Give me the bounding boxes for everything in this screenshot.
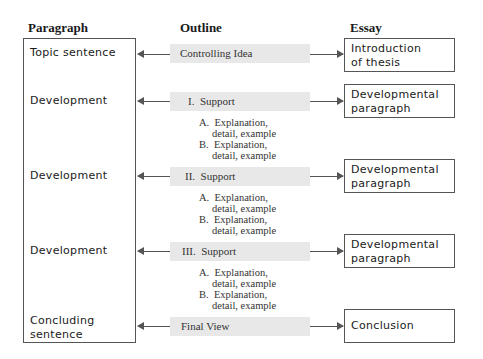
left-arrow-icon [138, 326, 170, 327]
subpoint-a-cont: detail, example [199, 203, 276, 214]
essay-box-line-2: paragraph [351, 252, 448, 266]
essay-box-introduction: Introduction of thesis [344, 38, 455, 72]
paragraph-development-3: Development [30, 244, 107, 258]
outline-label: III. Support [182, 245, 236, 257]
essay-box-developmental-2: Developmental paragraph [344, 159, 455, 193]
subpoint-a: A. Explanation, [199, 117, 276, 128]
subpoint-b-cont: detail, example [199, 150, 276, 161]
subpoint-b-cont: detail, example [199, 225, 276, 236]
left-arrow-icon [138, 54, 170, 55]
essay-box-line-1: Developmental [351, 238, 448, 252]
left-arrow-icon [138, 101, 170, 102]
paragraph-development-2: Development [30, 169, 107, 183]
essay-box-developmental-3: Developmental paragraph [344, 234, 455, 268]
essay-box-line-2: paragraph [351, 177, 448, 191]
outline-band-controlling-idea: Controlling Idea [170, 44, 310, 63]
paragraph-concluding-sentence: Concluding sentence [30, 314, 94, 342]
right-arrow-icon [310, 326, 343, 327]
outline-label: Controlling Idea [180, 47, 252, 59]
concluding-line-1: Concluding [30, 314, 94, 328]
outline-header: Outline [180, 20, 222, 36]
essay-header: Essay [350, 20, 382, 36]
essay-box-conclusion: Conclusion [344, 309, 455, 343]
subpoint-a: A. Explanation, [199, 267, 276, 278]
outline-subpoints-2: A. Explanation, detail, example B. Expla… [199, 192, 276, 236]
right-arrow-icon [310, 54, 343, 55]
subpoint-a-cont: detail, example [199, 128, 276, 139]
paragraph-development-1: Development [30, 94, 107, 108]
subpoint-b: B. Explanation, [199, 289, 276, 300]
subpoint-a: A. Explanation, [199, 192, 276, 203]
outline-band-support-2: II. Support [170, 167, 310, 186]
subpoint-a-cont: detail, example [199, 278, 276, 289]
essay-box-line-2: of thesis [351, 56, 448, 70]
right-arrow-icon [310, 176, 343, 177]
outline-subpoints-3: A. Explanation, detail, example B. Expla… [199, 267, 276, 311]
left-arrow-icon [138, 176, 170, 177]
paragraph-header: Paragraph [28, 20, 88, 36]
outline-band-final-view: Final View [170, 317, 310, 336]
essay-box-line-1: Introduction [351, 42, 448, 56]
essay-box-line-1: Conclusion [351, 319, 448, 333]
subpoint-b: B. Explanation, [199, 139, 276, 150]
essay-box-line-1: Developmental [351, 163, 448, 177]
paragraph-box [23, 38, 136, 343]
outline-band-support-3: III. Support [170, 242, 310, 261]
outline-label: II. Support [185, 170, 235, 182]
subpoint-b: B. Explanation, [199, 214, 276, 225]
paragraph-topic-sentence: Topic sentence [30, 46, 116, 60]
outline-label: I. Support [188, 95, 235, 107]
concluding-line-2: sentence [30, 328, 94, 342]
subpoint-b-cont: detail, example [199, 300, 276, 311]
right-arrow-icon [310, 101, 343, 102]
right-arrow-icon [310, 251, 343, 252]
outline-band-support-1: I. Support [170, 92, 310, 111]
outline-label: Final View [181, 320, 229, 332]
essay-box-line-1: Developmental [351, 88, 448, 102]
essay-box-line-2: paragraph [351, 102, 448, 116]
outline-subpoints-1: A. Explanation, detail, example B. Expla… [199, 117, 276, 161]
left-arrow-icon [138, 251, 170, 252]
essay-box-developmental-1: Developmental paragraph [344, 84, 455, 118]
